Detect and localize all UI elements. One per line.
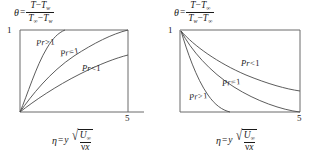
theta-numerator-left: T−Tw <box>28 1 52 12</box>
y-tick-label-1-left: 1 <box>7 25 12 35</box>
plot-panel-right: θ = T−T∞ Tw−T∞ 1 5 Pr<1 Pr=1 Pr>1 η = y … <box>160 0 320 158</box>
curve-label-pr-less-than-1-left: Pr<1 <box>82 63 101 73</box>
x-axis-label-right: η = y √ U∞ νx <box>216 129 257 153</box>
radical-sign-right: √ <box>236 129 242 141</box>
thermal-boundary-layer-figure: θ = T−Tw T∞−Tw 1 5 Pr>1 Pr=1 Pr<1 η = y … <box>0 0 320 158</box>
theta-fraction-left: T−Tw T∞−Tw <box>26 1 54 24</box>
radical-denominator-right: νx <box>244 142 255 153</box>
plot-panel-left: θ = T−Tw T∞−Tw 1 5 Pr>1 Pr=1 Pr<1 η = y … <box>0 0 160 158</box>
radical-denominator-left: νx <box>80 142 91 153</box>
curve-label-pr-greater-than-1-left: Pr>1 <box>36 36 55 47</box>
y-variable-left: y <box>64 136 68 146</box>
y-axis-label-right: θ = T−T∞ Tw−T∞ <box>174 1 214 24</box>
curve-label-pr-equal-1-right: Pr=1 <box>222 76 241 88</box>
y-tick-label-1-right: 1 <box>168 25 173 35</box>
radical-numerator-right: U∞ <box>243 131 256 142</box>
radical-left: √ U∞ νx <box>70 129 94 153</box>
x-tick-label-5-left: 5 <box>125 113 130 123</box>
radical-numerator-left: U∞ <box>79 131 92 142</box>
theta-denominator-left: T∞−Tw <box>26 12 54 24</box>
x-axis-label-left: η = y √ U∞ νx <box>52 129 93 153</box>
curve-pr-less-than-1-left <box>20 55 128 112</box>
curve-label-pr-greater-than-1-right: Pr>1 <box>189 90 208 102</box>
radical-sign-left: √ <box>72 129 78 141</box>
y-variable-right: y <box>228 136 232 146</box>
theta-numerator-right: T−T∞ <box>188 1 212 12</box>
theta-fraction-right: T−T∞ Tw−T∞ <box>186 1 214 24</box>
curve-label-pr-less-than-1-right: Pr<1 <box>241 58 260 68</box>
radical-right: √ U∞ νx <box>234 129 258 153</box>
x-tick-label-5-right: 5 <box>297 113 302 123</box>
theta-denominator-right: Tw−T∞ <box>186 12 214 24</box>
y-axis-label-left: θ = T−Tw T∞−Tw <box>14 1 54 24</box>
